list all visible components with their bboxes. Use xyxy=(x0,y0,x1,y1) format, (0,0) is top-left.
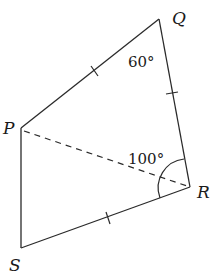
vertex-label-q: Q xyxy=(172,8,186,28)
side-rs xyxy=(21,187,190,248)
tick-mark-rs xyxy=(106,212,110,224)
vertex-label-p: P xyxy=(2,118,15,138)
diagonal-pr xyxy=(24,131,190,187)
side-pq xyxy=(21,19,159,128)
vertex-label-s: S xyxy=(9,255,21,274)
diagram-canvas: Q P S R 60° 100° xyxy=(0,0,217,274)
angle-label-r: 100° xyxy=(128,150,164,168)
quadrilateral-diagram: Q P S R 60° 100° xyxy=(0,0,217,274)
vertex-label-r: R xyxy=(196,182,210,202)
angle-label-q: 60° xyxy=(128,53,155,71)
